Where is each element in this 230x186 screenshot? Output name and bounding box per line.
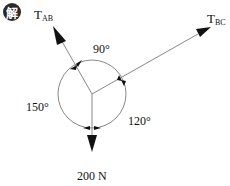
tbc-arrowhead <box>196 27 211 37</box>
weight-arrowhead <box>87 135 97 152</box>
weight-label: 200 N <box>77 170 107 182</box>
angle-right-label: 120° <box>128 115 151 127</box>
tab-arrowhead <box>53 26 66 45</box>
tab-label: TAB <box>34 8 53 23</box>
force-diagram: 解 TAB TBC 90° 150° 120° 200 N <box>0 0 230 186</box>
angle-top-label: 90° <box>93 43 110 55</box>
diagram-drawing <box>0 0 230 186</box>
angle-left-label: 150° <box>26 101 49 113</box>
arc-marker-top-left-2 <box>76 60 82 67</box>
tbc-label: TBC <box>207 12 226 27</box>
solution-badge: 解 <box>3 3 21 21</box>
solution-badge-text: 解 <box>6 4 18 21</box>
